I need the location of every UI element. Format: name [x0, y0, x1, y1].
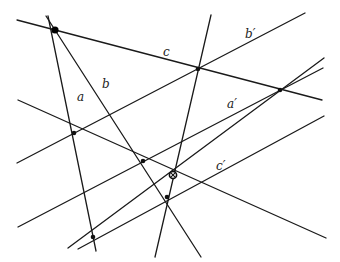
line-unlabeled-8	[78, 116, 324, 249]
point-f	[278, 88, 283, 93]
point-c	[165, 195, 170, 200]
line-label: b′	[245, 28, 255, 40]
lines-layer	[17, 13, 326, 257]
line-label: b	[102, 78, 110, 90]
line-b-prime	[17, 13, 305, 163]
point-b	[141, 159, 146, 164]
line-label: c′	[216, 160, 225, 172]
line-label: a′	[227, 98, 237, 110]
line-label: c	[163, 46, 170, 58]
diagram-canvas	[0, 0, 340, 262]
line-label: a	[77, 91, 84, 103]
point-d	[91, 235, 96, 240]
point-e	[196, 67, 201, 72]
point-p	[51, 26, 58, 33]
line-c-prime	[18, 100, 326, 238]
point-a	[72, 131, 77, 136]
